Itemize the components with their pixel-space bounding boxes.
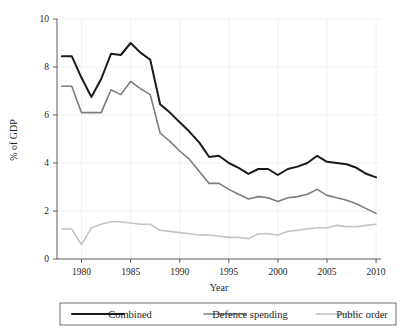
y-tick-label: 2 — [44, 206, 49, 216]
data-series — [62, 43, 376, 245]
x-tick-label: 1985 — [121, 267, 140, 277]
axis-tick-labels: 02468101980198519901995200020052010 — [40, 14, 386, 277]
legend-label-defence-spending: Defence spending — [212, 309, 288, 320]
chart-legend: CombinedDefence spendingPublic order — [60, 303, 396, 325]
x-tick-label: 2010 — [367, 267, 386, 277]
x-tick-label: 1990 — [170, 267, 189, 277]
x-tick-label: 2005 — [318, 267, 337, 277]
series-line-defence-spending — [62, 81, 376, 213]
series-line-public-order — [62, 222, 376, 245]
legend-label-combined: Combined — [108, 309, 152, 320]
x-tick-label: 1980 — [72, 267, 91, 277]
line-chart: 02468101980198519901995200020052010 Year… — [0, 0, 402, 329]
series-line-combined — [62, 43, 376, 177]
x-axis-title: Year — [210, 282, 229, 293]
legend-label-public-order: Public order — [336, 309, 388, 320]
x-tick-label: 1995 — [219, 267, 238, 277]
y-tick-label: 0 — [44, 254, 49, 264]
chart-figure: 02468101980198519901995200020052010 Year… — [0, 0, 402, 329]
legend-entries: CombinedDefence spendingPublic order — [72, 309, 388, 320]
y-axis-title: % of GDP — [8, 119, 19, 161]
axis-ticks — [53, 19, 376, 263]
x-tick-label: 2000 — [268, 267, 287, 277]
y-tick-label: 8 — [44, 62, 49, 72]
y-tick-label: 10 — [40, 14, 50, 24]
y-tick-label: 6 — [44, 110, 49, 120]
y-tick-label: 4 — [44, 158, 49, 168]
